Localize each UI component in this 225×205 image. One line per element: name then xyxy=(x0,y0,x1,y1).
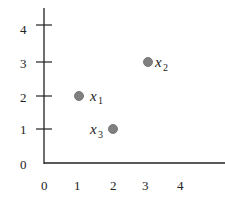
x-tick-labels: 0 1 2 3 4 xyxy=(41,178,184,193)
point-subscript: 2 xyxy=(163,62,168,73)
point-subscript: 3 xyxy=(98,129,103,140)
x-tick-1: 1 xyxy=(74,178,81,193)
y-tick-3: 3 xyxy=(20,56,27,71)
point-marker xyxy=(109,125,118,134)
x-tick-4: 4 xyxy=(177,178,184,193)
y-tick-4: 4 xyxy=(20,22,27,37)
point-x3: x 3 xyxy=(89,121,118,140)
x-tick-2: 2 xyxy=(110,178,117,193)
point-x2: x 2 xyxy=(144,54,169,73)
y-tick-0: 0 xyxy=(20,157,27,172)
scatter-chart: 4 3 2 1 0 0 1 2 3 4 x 1 x 2 x 3 xyxy=(0,0,225,205)
y-tick-labels: 4 3 2 1 0 xyxy=(20,22,27,172)
x-tick-3: 3 xyxy=(142,178,149,193)
x-tick-0: 0 xyxy=(41,178,48,193)
point-label: x xyxy=(89,121,97,137)
point-marker xyxy=(75,92,84,101)
point-label: x xyxy=(154,54,162,70)
y-tick-2: 2 xyxy=(20,90,27,105)
point-marker xyxy=(144,58,153,67)
point-subscript: 1 xyxy=(98,95,103,106)
point-label: x xyxy=(89,88,97,104)
point-x1: x 1 xyxy=(75,88,104,106)
y-tick-1: 1 xyxy=(20,122,27,137)
